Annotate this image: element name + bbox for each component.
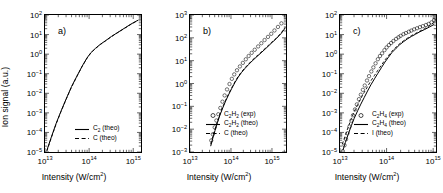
legend-solid-key-icon (205, 120, 221, 129)
x-tick-label-c: 1015 (426, 155, 441, 166)
legend-dashed-key-icon (205, 129, 221, 138)
x-axis-label-c-suffix: ) (396, 172, 399, 182)
panel-tag-b: b) (203, 26, 211, 36)
x-axis-label-b-prefix: Intensity (W/cm (187, 172, 246, 182)
figure-ion-signal-vs-intensity: Ion signal (a.u.) 10−510−410−310−210−110… (0, 0, 443, 193)
y-tick-label-c: 101 (325, 29, 337, 40)
panel-tag-c: c) (353, 26, 361, 36)
y-tick-label-c: 10−1 (322, 68, 337, 79)
legend-dashed-key-icon (74, 134, 90, 143)
y-tick-label-c: 10−4 (322, 127, 337, 138)
x-tick-label-a: 1015 (126, 155, 141, 166)
x-axis-label-b-suffix: ) (248, 172, 251, 182)
x-axis-label-c: Intensity (W/cm2) (291, 171, 443, 182)
x-tick-label-b: 1014 (223, 155, 238, 166)
y-tick-label-a: 10−1 (27, 68, 42, 79)
legend-item-label: C (theo) (224, 128, 248, 139)
y-axis-ticks-b: 10−310−210−1100101102103 (145, 14, 187, 153)
x-axis-ticks-c: 101310141015 (291, 155, 443, 169)
y-tick-label-a: 101 (30, 29, 42, 40)
y-tick-label-a: 10−4 (27, 127, 42, 138)
x-axis-ticks-b: 101310141015 (145, 155, 293, 169)
legend-item-label: I (theo) (372, 128, 393, 139)
y-tick-label-b: 10−2 (172, 124, 187, 135)
x-tick-label-c: 1013 (332, 155, 347, 166)
legend-solid-key-icon (353, 120, 369, 129)
y-tick-label-b: 102 (175, 33, 187, 44)
x-tick-label-a: 1013 (37, 155, 52, 166)
y-tick-label-c: 10−3 (322, 108, 337, 119)
y-tick-label-b: 103 (175, 10, 187, 21)
x-axis-ticks-a: 101310141015 (0, 155, 148, 169)
y-tick-label-a: 102 (30, 10, 42, 21)
x-axis-label-a-prefix: Intensity (W/cm (42, 172, 101, 182)
y-tick-label-a: 10−3 (27, 108, 42, 119)
x-tick-label-b: 1013 (182, 155, 197, 166)
y-tick-label-a: 100 (30, 49, 42, 60)
legend-circle-key-icon (205, 111, 221, 120)
legend-item-label: C (theo) (93, 133, 117, 144)
x-axis-label-b: Intensity (W/cm2) (145, 171, 293, 182)
x-axis-label-a: Intensity (W/cm2) (0, 171, 148, 182)
y-tick-label-b: 10−1 (172, 101, 187, 112)
panel-tag-a: a) (58, 26, 66, 36)
x-axis-label-c-prefix: Intensity (W/cm (335, 172, 394, 182)
x-tick-label-b: 1015 (264, 155, 279, 166)
y-tick-label-b: 101 (175, 55, 187, 66)
x-tick-label-a: 1014 (82, 155, 97, 166)
panel-b: 10−310−210−1100101102103 b) C2H2 (exp)C2… (145, 0, 293, 193)
x-axis-label-a-suffix: ) (103, 172, 106, 182)
y-tick-label-b: 100 (175, 78, 187, 89)
legend-solid-key-icon (74, 125, 90, 134)
panel-a: Ion signal (a.u.) 10−510−410−310−210−110… (0, 0, 148, 193)
y-tick-label-c: 10−2 (322, 88, 337, 99)
y-tick-label-c: 100 (325, 49, 337, 60)
legend-circle-key-icon (353, 111, 369, 120)
legend-dashed-key-icon (353, 129, 369, 138)
x-tick-label-c: 1014 (379, 155, 394, 166)
y-axis-ticks-c: 10−510−410−310−210−1100101102 (295, 14, 337, 153)
legend-b: C2H2 (exp)C2H2 (theo)C (theo) (205, 111, 258, 138)
panel-c: 10−510−410−310−210−1100101102 c) C2H4 (e… (291, 0, 443, 193)
y-tick-label-c: 102 (325, 10, 337, 21)
legend-item: C (theo) (74, 134, 120, 143)
legend-c: C2H4 (exp)C2H4 (theo)I (theo) (353, 111, 406, 138)
legend-a: C2 (theo)C (theo) (74, 125, 120, 143)
y-axis-ticks-a: 10−510−410−310−210−1100101102 (0, 14, 42, 153)
y-tick-label-a: 10−2 (27, 88, 42, 99)
